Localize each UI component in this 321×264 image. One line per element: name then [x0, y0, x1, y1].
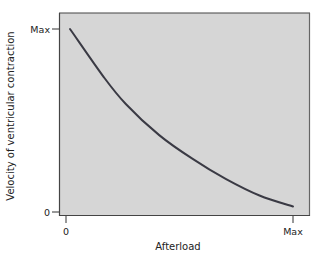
- y-tick-label-max: Max: [30, 24, 50, 35]
- x-axis-label: Afterload: [155, 241, 200, 252]
- y-axis-label: Velocity of ventricular contraction: [5, 31, 16, 200]
- x-tick-label-zero: 0: [63, 226, 69, 237]
- y-tick-label-zero: 0: [44, 207, 50, 218]
- chart: Max 0 0 Max Afterload Velocity of ventri…: [0, 0, 321, 264]
- plot-area: [60, 13, 309, 215]
- x-tick-label-max: Max: [283, 226, 303, 237]
